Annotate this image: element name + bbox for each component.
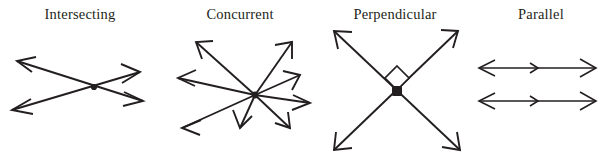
- concurrent-rays-icon: [160, 0, 320, 155]
- panel-concurrent: Concurrent: [160, 0, 320, 155]
- perpendicular-lines-icon: [320, 0, 470, 155]
- parallel-lines-icon: [470, 0, 612, 155]
- geometry-figure-board: Intersecting Concurrent: [0, 0, 612, 155]
- two-crossing-lines-icon: [0, 0, 160, 155]
- panel-perpendicular: Perpendicular: [320, 0, 470, 155]
- panel-parallel: Parallel: [470, 0, 612, 155]
- panel-intersecting: Intersecting: [0, 0, 160, 155]
